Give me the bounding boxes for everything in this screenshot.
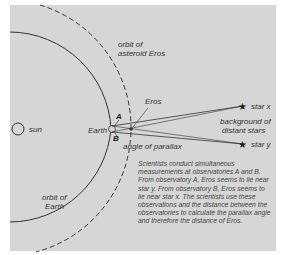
sun-icon [12,123,24,135]
earth-orbit-label-1: orbit of [42,193,66,202]
description-text: Scientists conduct simultaneous measurem… [138,160,273,226]
star-x-label: star x [251,102,271,111]
parallax-angle-label: angle of parallax [123,142,182,151]
observatory-a-label: A [116,112,122,121]
eros-label: Eros [145,97,161,106]
star-y-icon: ★ [238,139,247,150]
eros-orbit [36,5,131,252]
background-stars-label-2: distant stars [222,126,265,135]
observatory-b-label: B [113,134,119,143]
eros-orbit-label-2: asteroid Eros [118,49,165,58]
earth-orbit-label-2: Earth [45,202,64,211]
star-x-icon: ★ [238,101,247,112]
earth-label: Earth [88,126,107,135]
sun-label: sun [29,125,42,134]
background-stars-label-1: background of [220,117,271,126]
star-y-label: star y [251,140,271,149]
eros-orbit-label-1: orbit of [118,40,142,49]
eros-icon [129,127,133,131]
